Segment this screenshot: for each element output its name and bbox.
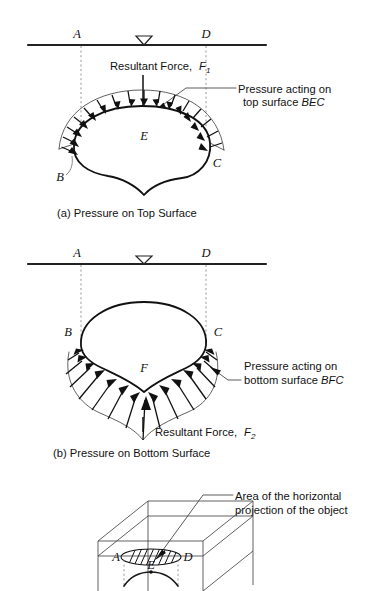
projection-annotation-line1-c: Area of the horizontal <box>235 490 341 502</box>
body-label-C-a: C <box>213 156 222 170</box>
object-body-b <box>81 302 206 392</box>
projection-annotation-line2-c: projection of the object <box>235 504 348 516</box>
body-label-A-c: A <box>111 550 120 564</box>
caption-b: (b) Pressure on Bottom Surface <box>53 447 210 459</box>
body-label-B-b: B <box>64 325 72 339</box>
pressure-annotation-line1-b: Pressure acting on <box>244 360 337 372</box>
resultant-force-label-b: Resultant Force, <box>155 426 237 438</box>
body-label-E-a: E <box>139 129 148 143</box>
panel-c: Area of the horizontal projection of the… <box>98 490 348 591</box>
annotation-leader-b <box>217 372 241 380</box>
body-label-B-a: B <box>56 170 64 184</box>
projection-annotation-leader-c <box>160 495 233 554</box>
pressure-annotation-italic-b: BFC <box>321 374 344 386</box>
panel-a: A D Resultant Force, F 1 Pressure acting… <box>28 27 331 219</box>
surface-label-D-b: D <box>200 246 210 260</box>
pressure-annotation-line2-b: bottom surface BFC <box>244 374 344 386</box>
water-table-triangle-icon-b <box>136 256 152 264</box>
body-label-F-b: F <box>139 361 148 375</box>
body-label-C-b: C <box>214 325 223 339</box>
resultant-force-subscript-a: 1 <box>206 66 210 75</box>
figure-container: A D Resultant Force, F 1 Pressure acting… <box>0 0 380 591</box>
pressure-annotation-line2-a: top surface BEC <box>243 96 325 108</box>
pressure-annotation-line1-a: Pressure acting on <box>238 83 331 95</box>
object-top-arc-c <box>124 572 178 586</box>
box-right-lower-edge <box>203 551 253 591</box>
surface-label-A-a: A <box>72 27 81 41</box>
surface-label-A-b: A <box>72 246 81 260</box>
resultant-force-subscript-b: 2 <box>250 432 256 441</box>
body-label-E-c: E <box>146 558 155 572</box>
surface-label-D-a: D <box>200 27 210 41</box>
pressure-annotation-prefix-b: bottom surface <box>244 374 321 386</box>
body-label-B-leader-a <box>66 156 72 175</box>
pressure-annotation-italic-a: BEC <box>301 96 325 108</box>
body-label-D-c: D <box>182 550 192 564</box>
water-table-triangle-icon-a <box>136 36 152 45</box>
caption-a: (a) Pressure on Top Surface <box>57 207 197 219</box>
resultant-force-label-a: Resultant Force, <box>110 60 192 72</box>
pressure-annotation-prefix-a: top surface <box>243 96 301 108</box>
panel-b: A D <box>28 246 344 459</box>
